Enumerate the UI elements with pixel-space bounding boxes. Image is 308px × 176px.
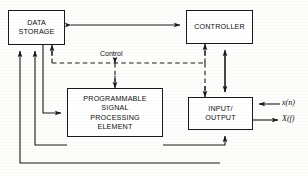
control-bus (52, 50, 205, 91)
block-pspe-label: PROGRAMMABLE SIGNAL PROCESSING ELEMENT (83, 94, 146, 132)
output-signal-label: X(f) (282, 114, 294, 123)
link-pspe-io (163, 136, 225, 145)
control-bus-label: Control (100, 50, 123, 57)
block-input-output: INPUT/ OUTPUT (188, 97, 253, 130)
block-programmable-signal-processing-element: PROGRAMMABLE SIGNAL PROCESSING ELEMENT (67, 88, 163, 137)
block-input-output-label: INPUT/ OUTPUT (205, 105, 235, 122)
block-data-storage-label: DATA STORAGE (18, 19, 54, 36)
block-data-storage: DATA STORAGE (8, 10, 65, 45)
block-diagram: DATA STORAGE CONTROLLER PROGRAMMABLE SIG… (0, 0, 308, 176)
block-controller-label: CONTROLLER (194, 23, 245, 32)
input-signal-label: x(n) (282, 98, 295, 107)
link-pspe-storage (35, 51, 67, 145)
block-controller: CONTROLLER (186, 10, 253, 44)
